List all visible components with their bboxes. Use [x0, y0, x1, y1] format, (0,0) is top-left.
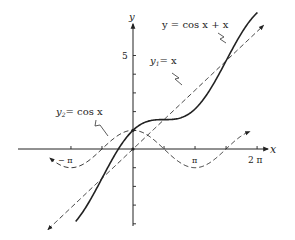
y2-label: y2= cos x — [55, 106, 103, 118]
tick-label-2pi: 2 π — [248, 155, 263, 165]
tick-label-pi: π — [192, 156, 197, 165]
x-axis-label: x — [270, 143, 277, 156]
function-plot: x y − π π 2 π 5 y = cos x + x y1= x y2= … — [0, 0, 295, 240]
y1-pointer — [172, 73, 182, 85]
curves — [48, 12, 263, 229]
point-marker — [131, 129, 134, 132]
series-1 — [48, 26, 263, 230]
sum-curve-pointer — [218, 33, 226, 43]
axes — [18, 24, 268, 226]
y2-pointer — [95, 120, 108, 136]
tick-label-5: 5 — [122, 51, 128, 61]
y-axis-label: y — [128, 11, 135, 22]
y1-label: y1= x — [149, 55, 177, 67]
sum-curve-label: y = cos x + x — [161, 19, 229, 30]
tick-label-neg-pi: − π — [58, 156, 73, 165]
point-marker — [131, 147, 134, 150]
